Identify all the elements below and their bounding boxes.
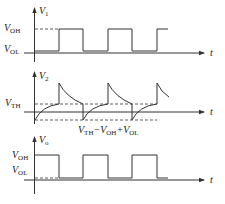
- v2-t-label: t: [210, 106, 213, 117]
- vo-voh-label: VOH: [12, 149, 28, 162]
- v1-y-label: V1: [39, 5, 49, 18]
- vo-t-label: t: [210, 174, 213, 185]
- vo-vol-label: VOL: [12, 164, 27, 177]
- v2-rc-waveform: [35, 83, 169, 120]
- vo-y-label: Vo: [39, 134, 49, 147]
- panel-v1: V1 t VOH VOL: [4, 5, 213, 62]
- panel-vo: Vo t VOH VOL: [12, 134, 213, 194]
- v2-annotation: VTH−VOH+VOL: [78, 124, 139, 137]
- vo-square-wave: [35, 155, 168, 178]
- v1-square-wave: [35, 29, 168, 51]
- panel-v2: V2 t VTH VTH−VOH+VOL: [5, 70, 213, 137]
- v1-voh-label: VOH: [4, 22, 20, 35]
- v1-t-label: t: [210, 47, 213, 58]
- v1-vol-label: VOL: [4, 43, 19, 56]
- waveform-diagram: V1 t VOH VOL V2 t VTH VTH−VOH+VOL Vo t V…: [0, 0, 225, 204]
- v2-y-label: V2: [39, 70, 49, 83]
- v2-vth-label: VTH: [5, 97, 20, 110]
